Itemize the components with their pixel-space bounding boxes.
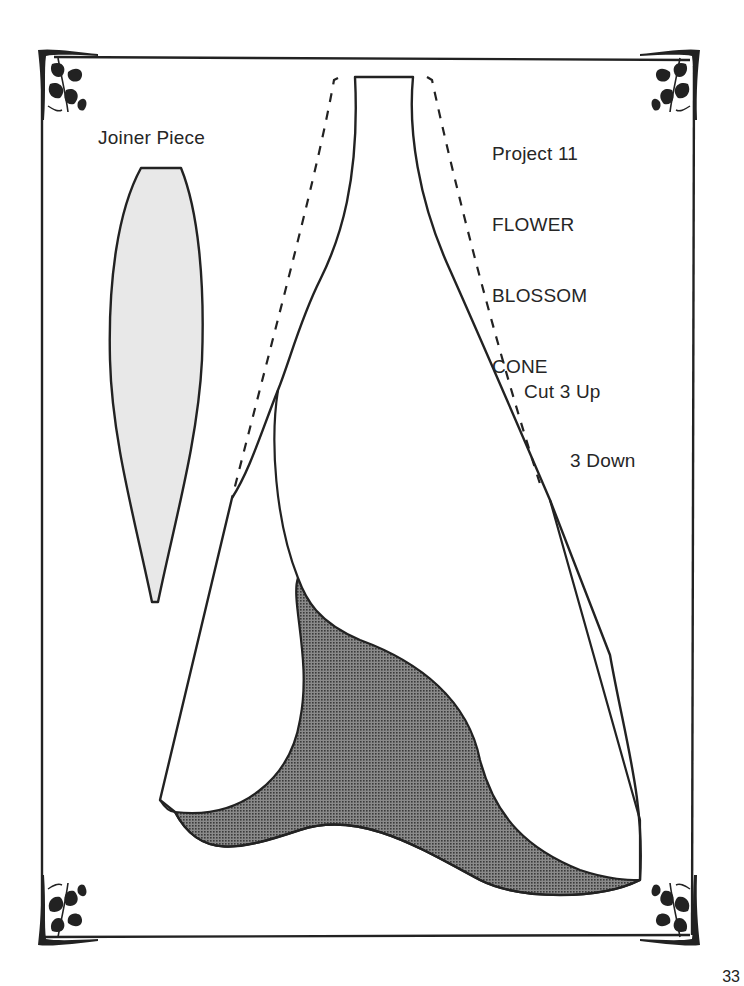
- title-line-blossom: BLOSSOM: [492, 283, 587, 308]
- leaf-vine-icon: [38, 875, 98, 946]
- joiner-piece-label: Joiner Piece: [98, 126, 205, 149]
- leaf-vine-icon: [38, 49, 98, 120]
- cut-instruction-up: Cut 3 Up: [524, 380, 636, 403]
- cut-instruction-down: 3 Down: [524, 449, 636, 472]
- cone-right-edge: [550, 500, 640, 880]
- cut-instructions: Cut 3 Up 3 Down: [524, 334, 636, 518]
- title-line-flower: FLOWER: [492, 212, 587, 237]
- project-number: Project 11: [492, 141, 587, 166]
- dashed-guide-left: [232, 78, 338, 498]
- shaded-inner-region: [175, 578, 640, 895]
- cone-inner-fold-line: [274, 390, 298, 578]
- joiner-piece-shape: [110, 168, 203, 602]
- page-number: 33: [722, 968, 740, 986]
